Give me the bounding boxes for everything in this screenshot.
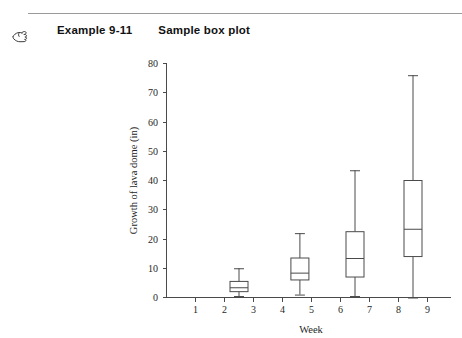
x-axis-title: Week — [299, 324, 323, 335]
x-tick-label: 6 — [338, 304, 343, 315]
box-week-2-3 — [230, 268, 248, 296]
y-tick-label: 20 — [148, 234, 158, 245]
example-title-label: Sample box plot — [158, 24, 250, 36]
box-week-8-9 — [404, 75, 422, 298]
manicule-pointing-hand-icon — [10, 26, 32, 46]
y-tick-label: 10 — [148, 263, 158, 274]
box-week-6-7 — [346, 170, 364, 296]
box-plot-figure: 80 70 60 50 40 30 20 10 0 Growth of lava… — [0, 52, 462, 338]
y-axis-tick-labels: 80 70 60 50 40 30 20 10 0 — [148, 58, 158, 303]
y-tick-label: 0 — [153, 292, 158, 303]
x-tick-label: 7 — [367, 304, 372, 315]
x-tick-label: 2 — [222, 304, 227, 315]
header-divider-rule — [28, 13, 462, 14]
box-iqr — [291, 258, 309, 280]
y-axis-title: Growth of lava dome (in) — [128, 126, 140, 234]
x-tick-label: 3 — [251, 304, 256, 315]
box-plot-chart: 80 70 60 50 40 30 20 10 0 Growth of lava… — [0, 52, 462, 338]
x-tick-label: 1 — [193, 304, 198, 315]
box-iqr — [404, 181, 422, 257]
box-iqr — [346, 232, 364, 277]
box-iqr — [230, 281, 248, 291]
y-tick-label: 50 — [148, 146, 158, 157]
x-tick-label: 8 — [396, 304, 401, 315]
x-tick-label: 5 — [309, 304, 314, 315]
x-axis-tick-labels: 1 2 3 4 5 6 7 8 9 — [193, 304, 430, 315]
y-tick-label: 60 — [148, 117, 158, 128]
x-tick-label: 4 — [280, 304, 285, 315]
x-axis-ticks — [196, 298, 428, 302]
y-tick-label: 80 — [148, 58, 158, 69]
y-tick-label: 70 — [148, 87, 158, 98]
y-axis-ticks — [163, 64, 167, 298]
y-tick-label: 30 — [148, 204, 158, 215]
box-week-4-5 — [291, 233, 309, 295]
box-plot-series — [230, 75, 422, 298]
example-number-label: Example 9-11 — [57, 24, 132, 36]
y-tick-label: 40 — [148, 175, 158, 186]
x-tick-label: 9 — [425, 304, 430, 315]
page-title: Example 9-11Sample box plot — [57, 24, 250, 36]
